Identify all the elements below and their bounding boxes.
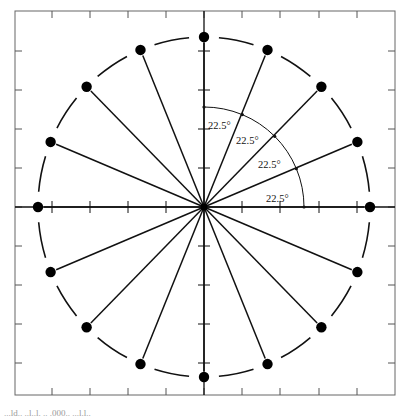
caption: ...ld.. ..l..l. .. .000.. ...l.l.. bbox=[4, 408, 91, 418]
point-0 bbox=[365, 202, 375, 212]
point-1 bbox=[352, 137, 362, 147]
point-5 bbox=[135, 45, 145, 55]
angle-label-1: 22.5° bbox=[236, 135, 259, 146]
point-4 bbox=[199, 32, 209, 42]
point-15 bbox=[352, 267, 362, 277]
point-9 bbox=[45, 267, 55, 277]
point-12 bbox=[199, 372, 209, 382]
angle-label-2: 22.5° bbox=[258, 159, 281, 170]
center-point bbox=[201, 204, 208, 211]
point-7 bbox=[45, 137, 55, 147]
point-11 bbox=[135, 359, 145, 369]
point-3 bbox=[262, 45, 272, 55]
point-8 bbox=[33, 202, 43, 212]
point-14 bbox=[316, 322, 326, 332]
point-2 bbox=[316, 82, 326, 92]
polar-diagram: 22.5°22.5°22.5°22.5° bbox=[0, 0, 410, 419]
point-10 bbox=[81, 322, 91, 332]
angle-label-3: 22.5° bbox=[266, 193, 289, 204]
point-13 bbox=[262, 359, 272, 369]
point-6 bbox=[81, 82, 91, 92]
angle-label-0: 22.5° bbox=[208, 120, 231, 131]
